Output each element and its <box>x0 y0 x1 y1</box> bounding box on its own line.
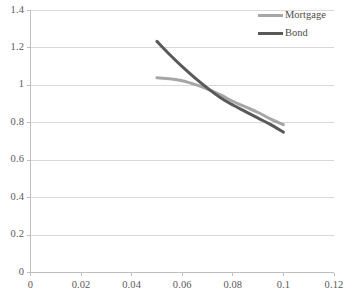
x-tick-label: 0.02 <box>61 279 101 290</box>
gridlines <box>31 11 335 273</box>
y-tick-label: 0 <box>0 266 24 277</box>
y-tick-label: 0.8 <box>0 116 24 127</box>
legend-swatch-icon <box>258 32 283 35</box>
legend-label: Mortgage <box>285 10 326 21</box>
y-tick-label: 1.4 <box>0 4 24 15</box>
y-tick-label: 0.6 <box>0 153 24 164</box>
legend-item-mortgage[interactable]: Mortgage <box>258 8 343 23</box>
legend-label: Bond <box>285 28 308 39</box>
data-series <box>157 41 283 132</box>
x-tick-label: 0.04 <box>112 279 152 290</box>
series-line-bond <box>157 41 283 132</box>
legend-item-bond[interactable]: Bond <box>258 26 343 41</box>
axis-lines <box>31 11 335 273</box>
x-tick-label: 0.08 <box>213 279 253 290</box>
legend-swatch-icon <box>258 14 283 17</box>
x-tick-label: 0 <box>11 279 51 290</box>
x-tick-label: 0.06 <box>162 279 202 290</box>
y-tick-label: 1.2 <box>0 41 24 52</box>
y-tick-label: 0.2 <box>0 228 24 239</box>
x-axis-tick-marks <box>27 11 334 277</box>
chart-legend: MortgageBond <box>258 8 343 44</box>
y-tick-label: 1 <box>0 78 24 89</box>
y-tick-label: 0.4 <box>0 191 24 202</box>
x-tick-label: 0.1 <box>263 279 303 290</box>
x-tick-label: 0.12 <box>314 279 348 290</box>
